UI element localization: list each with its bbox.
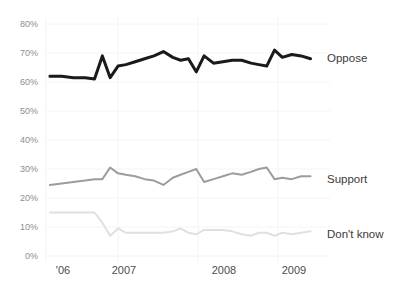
series-line-support xyxy=(50,168,311,185)
chart-plot-area xyxy=(0,0,407,299)
y-tick-0: 0% xyxy=(8,251,38,261)
x-tick-06: '06 xyxy=(43,265,83,275)
chart-container: 80% 70% 60% 50% 40% 30% 20% 10% 0% '06 2… xyxy=(0,0,407,299)
series-line-oppose xyxy=(50,50,311,79)
y-tick-10: 10% xyxy=(8,222,38,232)
y-tick-60: 60% xyxy=(8,77,38,87)
y-tick-50: 50% xyxy=(8,106,38,116)
series-line-dont-know xyxy=(50,213,311,236)
y-tick-80: 80% xyxy=(8,19,38,29)
x-tick-2009: 2009 xyxy=(274,265,314,275)
y-tick-30: 30% xyxy=(8,164,38,174)
series-lines xyxy=(50,50,311,236)
y-tick-40: 40% xyxy=(8,135,38,145)
y-tick-20: 20% xyxy=(8,193,38,203)
series-label-support: Support xyxy=(327,173,367,186)
y-tick-70: 70% xyxy=(8,48,38,58)
series-label-oppose: Oppose xyxy=(327,52,367,65)
series-label-dont-know: Don't know xyxy=(327,228,384,241)
x-tick-2007: 2007 xyxy=(104,265,144,275)
x-tick-2008: 2008 xyxy=(204,265,244,275)
